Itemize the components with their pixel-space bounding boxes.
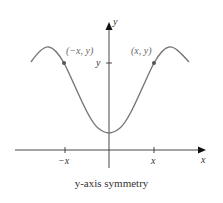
y-axis-arrow-icon [106,22,113,30]
y-tick-label: y [96,58,100,68]
y-axis-label: y [113,17,117,27]
even-function-curve [31,47,189,133]
x-axis-arrow-icon [198,147,206,154]
x-tick-pos-label: x [151,156,155,166]
x-axis-label: x [201,155,205,165]
point-pos-x [152,61,156,65]
point-pos-label: (x, y) [131,46,152,56]
caption: y-axis symmetry [0,177,223,189]
symmetry-graph [0,0,223,203]
point-neg-x [62,61,66,65]
point-neg-label: (−x, y) [66,46,93,56]
x-tick-neg-label: −x [58,156,69,166]
